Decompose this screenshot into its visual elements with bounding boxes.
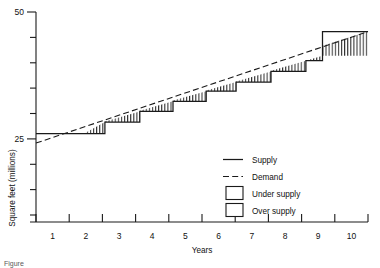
legend-label-supply: Supply	[252, 156, 278, 165]
y-axis-title: Square feet (millions)	[8, 149, 17, 227]
x-tick-label-9: 9	[316, 231, 321, 241]
x-tick-label-3: 3	[117, 231, 122, 241]
legend-label-under-supply: Under supply	[252, 190, 301, 199]
x-axis: 1 2 3 4 5 6 7 8 9 10 Years	[30, 214, 368, 255]
legend-label-demand: Demand	[252, 173, 283, 182]
legend-item-under-supply: Under supply	[226, 187, 301, 200]
legend-empty-box-icon	[226, 204, 243, 217]
chart-legend: Supply Demand Under supply Over supply	[223, 156, 301, 217]
legend-item-demand: Demand	[223, 173, 283, 182]
x-tick-label-6: 6	[216, 231, 221, 241]
x-tick-label-1: 1	[50, 231, 55, 241]
x-tick-label-5: 5	[183, 231, 188, 241]
x-axis-title: Years	[192, 246, 213, 255]
y-tick-label-50: 50	[15, 7, 25, 17]
x-tick-label-7: 7	[249, 231, 254, 241]
demand-line	[36, 32, 368, 144]
supply-step-line	[36, 32, 368, 134]
legend-item-supply: Supply	[223, 156, 278, 165]
legend-hatched-box-icon	[226, 187, 243, 200]
chart-container: 50 25 Square feet (millions) 1 2 3 4 5 6…	[0, 0, 380, 268]
x-tick-label-10: 10	[347, 231, 357, 241]
under-supply-regions	[84, 32, 368, 134]
x-tick-label-2: 2	[83, 231, 88, 241]
supply-demand-chart: 50 25 Square feet (millions) 1 2 3 4 5 6…	[0, 0, 380, 268]
figure-caption: Figure	[4, 260, 24, 268]
x-tick-label-8: 8	[283, 231, 288, 241]
y-axis: 50 25 Square feet (millions)	[8, 7, 36, 227]
x-tick-label-4: 4	[150, 231, 155, 241]
legend-label-over-supply: Over supply	[252, 207, 297, 216]
y-tick-label-25: 25	[15, 134, 25, 144]
legend-item-over-supply: Over supply	[226, 204, 297, 217]
